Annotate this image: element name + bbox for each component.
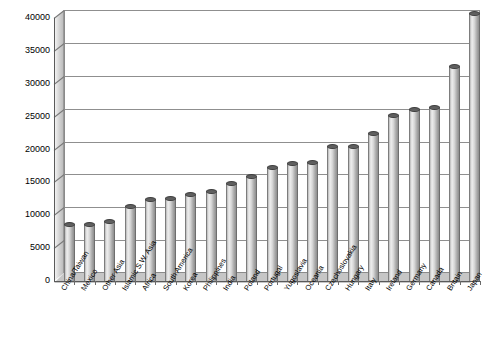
x-axis-tick bbox=[155, 281, 156, 285]
x-axis-label: Canada bbox=[425, 266, 446, 293]
x-axis-tick bbox=[196, 281, 197, 285]
x-axis-tick bbox=[115, 281, 116, 285]
x-axis-tick bbox=[135, 281, 136, 285]
x-axis-tick bbox=[480, 281, 481, 285]
x-axis-tick bbox=[439, 281, 440, 285]
x-axis-tick bbox=[277, 281, 278, 285]
x-axis-tick bbox=[216, 281, 217, 285]
x-axis-labels: China/TaiwanMexicoOther AsiaIslamic S.W.… bbox=[0, 0, 491, 340]
x-axis-tick bbox=[318, 281, 319, 285]
x-axis-tick bbox=[237, 281, 238, 285]
x-axis-tick bbox=[257, 281, 258, 285]
x-axis-label: Mexico bbox=[80, 268, 99, 292]
x-axis-tick bbox=[338, 281, 339, 285]
x-axis-label: Ireland bbox=[385, 269, 404, 293]
x-axis-tick bbox=[74, 281, 75, 285]
x-axis-tick bbox=[297, 281, 298, 285]
x-axis-tick bbox=[358, 281, 359, 285]
x-axis-label: Portugal bbox=[263, 264, 285, 292]
x-axis-label: Poland bbox=[243, 268, 262, 292]
x-axis-label: Britain bbox=[446, 270, 464, 292]
x-axis-tick bbox=[379, 281, 380, 285]
x-axis-tick bbox=[95, 281, 96, 285]
x-axis-label: Italy bbox=[364, 276, 378, 292]
x-axis-label: India bbox=[222, 274, 237, 292]
bar-chart: 0500010000150002000025000300003500040000… bbox=[0, 0, 491, 340]
x-axis-tick bbox=[399, 281, 400, 285]
x-axis-tick bbox=[460, 281, 461, 285]
x-axis-label: Oceania bbox=[304, 264, 326, 292]
x-axis-tick bbox=[176, 281, 177, 285]
x-axis-tick bbox=[419, 281, 420, 285]
x-axis-label: Hungary bbox=[344, 264, 366, 292]
